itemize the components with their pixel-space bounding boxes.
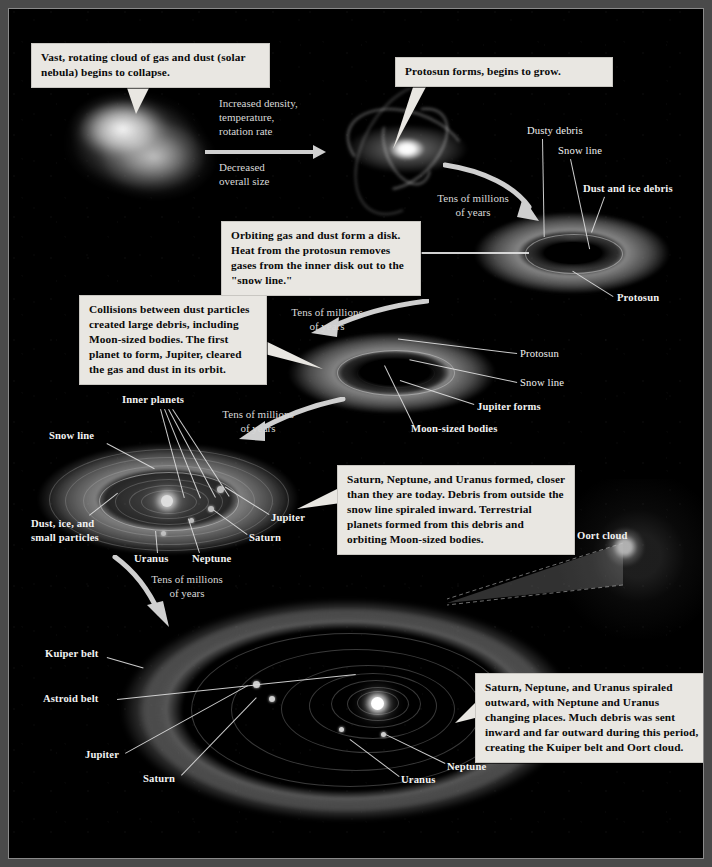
label-snow-line-stage4: Snow line (520, 377, 564, 388)
label-saturn-mature: Saturn (143, 773, 175, 784)
callout-disk-forms-text: Orbiting gas and dust form a disk. Heat … (231, 229, 404, 286)
callout-disk-forms: Orbiting gas and dust form a disk. Heat … (221, 221, 421, 296)
label-time-2: Tens of millions of years (267, 306, 387, 334)
callout-collisions: Collisions between dust particles create… (79, 295, 267, 385)
label-time-4: Tens of millions of years (127, 573, 247, 601)
label-kuiper-belt: Kuiper belt (45, 648, 99, 659)
callout-protosun-forms: Protosun forms, begins to grow. (395, 57, 613, 87)
label-dusty-debris: Dusty debris (527, 125, 583, 136)
diagram-canvas: Vast, rotating cloud of gas and dust (so… (9, 9, 703, 858)
label-protosun-stage3: Protosun (617, 292, 659, 303)
label-astroid-belt: Astroid belt (43, 693, 98, 704)
callout-nebula-collapse: Vast, rotating cloud of gas and dust (so… (31, 43, 270, 88)
label-snow-line-stage3: Snow line (558, 145, 602, 156)
label-time-3: Tens of millions of years (198, 408, 318, 436)
label-increased-density: Increased density, temperature, rotation… (219, 97, 339, 138)
label-neptune-stage5: Neptune (192, 553, 231, 564)
label-oort-cloud: Oort cloud (577, 530, 628, 541)
label-dust-and-ice-debris: Dust and ice debris (583, 183, 673, 194)
callout-outer-planets-form-stem (297, 487, 341, 513)
label-uranus-stage5: Uranus (134, 553, 168, 564)
label-snow-line-stage5: Snow line (49, 430, 94, 441)
label-dust-ice-small-particles: Dust, ice, and small particles (31, 517, 99, 545)
callout-nebula-collapse-text: Vast, rotating cloud of gas and dust (so… (41, 51, 245, 78)
diagram-page: Vast, rotating cloud of gas and dust (so… (0, 0, 712, 867)
label-protosun-stage4: Protosun (520, 348, 559, 359)
callout-spiraled-outward-text: Saturn, Neptune, and Uranus spiraled out… (485, 681, 698, 753)
dust-disk-inner-cleared (527, 236, 619, 270)
label-decreased-size: Decreased overall size (219, 161, 339, 189)
label-time-1: Tens of millions of years (413, 192, 533, 220)
label-moon-sized-bodies: Moon-sized bodies (411, 423, 497, 434)
label-saturn-stage5: Saturn (249, 532, 281, 543)
callout-outer-planets-form-text: Saturn, Neptune, and Uranus formed, clos… (347, 473, 565, 545)
callout-protosun-forms-text: Protosun forms, begins to grow. (405, 65, 561, 77)
label-jupiter-mature: Jupiter (85, 749, 119, 760)
callout-collisions-text: Collisions between dust particles create… (89, 303, 250, 375)
callout-protosun-forms-stem (393, 85, 429, 151)
callout-outer-planets-form: Saturn, Neptune, and Uranus formed, clos… (337, 465, 575, 555)
arrow-stage1-to-stage2 (205, 150, 315, 154)
label-jupiter-forms: Jupiter forms (477, 401, 541, 412)
arrow-stage1-to-stage2-head (313, 145, 326, 159)
label-inner-planets: Inner planets (122, 394, 184, 405)
callout-spiraled-outward: Saturn, Neptune, and Uranus spiraled out… (475, 673, 703, 763)
label-jupiter-stage5: Jupiter (271, 512, 305, 523)
callout-nebula-collapse-stem (127, 88, 155, 114)
label-uranus-mature: Uranus (401, 774, 435, 785)
